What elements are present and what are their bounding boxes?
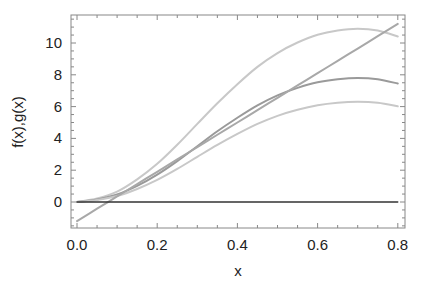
y-tick-label: 6 (54, 98, 62, 115)
x-tick-label: 0.8 (387, 236, 408, 253)
curve-top (77, 29, 398, 202)
line-linear (77, 24, 398, 221)
y-tick-label: 2 (54, 161, 62, 178)
y-tick-label: 10 (45, 34, 62, 51)
y-tick-label: 8 (54, 66, 62, 83)
x-axis-label: x (234, 262, 242, 279)
x-tick-label: 0.0 (67, 236, 88, 253)
y-ticks: 0246810 (45, 19, 405, 226)
line-chart: 0.00.20.40.60.8 0246810 x f(x),g(x) (0, 0, 426, 288)
x-tick-label: 0.4 (227, 236, 248, 253)
series-group (77, 24, 398, 221)
x-tick-label: 0.2 (147, 236, 168, 253)
x-tick-label: 0.6 (307, 236, 328, 253)
y-axis-label: f(x),g(x) (9, 96, 26, 148)
y-tick-label: 0 (54, 193, 62, 210)
curve-middle (77, 78, 398, 202)
y-tick-label: 4 (54, 129, 62, 146)
